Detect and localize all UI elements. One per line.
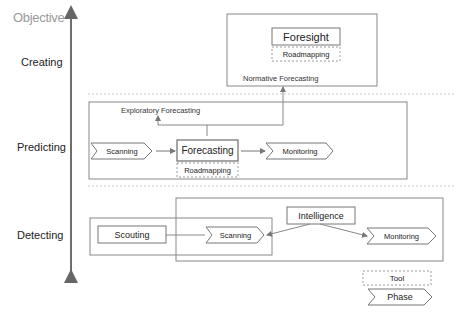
level-label-predicting: Predicting [17, 142, 66, 153]
legend-phase-label: Phase [374, 289, 426, 305]
level-label-creating: Creating [21, 57, 63, 68]
scouting-label: Scouting [98, 226, 166, 243]
detecting-monitoring-label: Monitoring [373, 228, 430, 244]
exploratory-path [158, 116, 283, 125]
creating-tool-label: Roadmapping [272, 47, 340, 61]
legend-tool-label: Tool [363, 271, 431, 285]
detecting-scanning-label: Scanning [211, 227, 260, 243]
level-label-detecting: Detecting [17, 230, 63, 241]
predicting-scanning-label: Scanning [97, 143, 147, 159]
predicting-monitoring-label: Monitoring [272, 143, 328, 159]
normative-forecasting-label: Normative Forecasting [243, 75, 318, 83]
forecasting-label: Forecasting [177, 140, 238, 161]
intelligence-label: Intelligence [287, 207, 355, 224]
foresight-label: Foresight [272, 28, 340, 45]
axis-title: Objective [13, 11, 65, 24]
predicting-tool-label: Roadmapping [177, 163, 238, 177]
exploratory-forecasting-label: Exploratory Forecasting [121, 107, 200, 115]
